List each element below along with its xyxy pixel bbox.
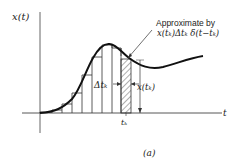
staircase-approximation [40,45,121,113]
arrowhead-icon [131,82,135,86]
annotation-leader [128,30,152,58]
arrowhead-icon [117,82,121,86]
tick-label: tₖ [121,118,127,127]
hatched-strip [121,59,131,113]
figure-caption: (a) [143,148,156,158]
signal-decomposition-diagram: x(t) t Approximate by x(tₖ)Δtₖ δ(t−tₖ) Δ… [0,0,245,165]
height-label: x(tₖ) [137,82,155,92]
y-axis-label: x(t) [12,11,30,22]
annotation-line-1: Approximate by [156,18,216,28]
x-axis-label: t [223,108,227,118]
annotation-line-2: x(tₖ)Δtₖ δ(t−tₖ) [157,28,219,38]
arrowhead-icon [138,108,142,113]
delta-t-label: Δtₖ [93,80,108,90]
